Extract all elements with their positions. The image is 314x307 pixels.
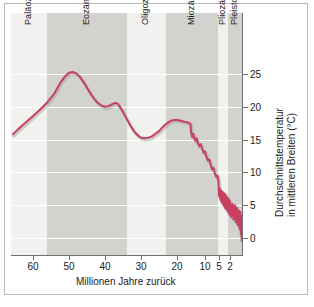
x-tick-50 bbox=[69, 256, 70, 260]
y-axis-title-line1: Durchschnittstemperatur bbox=[274, 108, 285, 217]
y-tick-25 bbox=[243, 74, 248, 75]
x-tick-5 bbox=[219, 256, 220, 260]
temperature-curve bbox=[11, 13, 242, 255]
y-tick-label-10: 10 bbox=[250, 167, 261, 178]
y-tick-5 bbox=[243, 205, 248, 206]
y-tick-0 bbox=[243, 238, 248, 239]
x-tick-20 bbox=[177, 256, 178, 260]
x-tick-label-30: 30 bbox=[135, 261, 146, 272]
x-tick-label-5: 5 bbox=[216, 261, 222, 272]
y-tick-15 bbox=[243, 140, 248, 141]
y-tick-10 bbox=[243, 172, 248, 173]
x-axis-title: Millionen Jahre zurück bbox=[76, 276, 176, 288]
x-tick-label-40: 40 bbox=[99, 261, 110, 272]
y-tick-label-5: 5 bbox=[250, 200, 256, 211]
x-tick-60 bbox=[33, 256, 34, 260]
temperature-chart-figure: PaläozänEozänOligozänMiozänPliozänPleist… bbox=[0, 0, 314, 307]
x-tick-label-10: 10 bbox=[199, 261, 210, 272]
y-tick-label-0: 0 bbox=[250, 233, 256, 244]
plot-right-axis-line bbox=[242, 13, 243, 256]
y-tick-label-20: 20 bbox=[250, 101, 261, 112]
plot-bottom-axis-line bbox=[11, 255, 243, 256]
x-tick-2 bbox=[230, 256, 231, 260]
x-tick-30 bbox=[141, 256, 142, 260]
x-tick-40 bbox=[105, 256, 106, 260]
x-tick-label-2: 2 bbox=[227, 261, 233, 272]
y-axis-title-line2: in mittleren Breiten (°C) bbox=[286, 57, 298, 217]
y-tick-20 bbox=[243, 107, 248, 108]
x-tick-label-20: 20 bbox=[171, 261, 182, 272]
x-tick-label-50: 50 bbox=[63, 261, 74, 272]
y-tick-label-25: 25 bbox=[250, 69, 261, 80]
y-axis-title: Durchschnittstemperatur in mittleren Bre… bbox=[274, 57, 298, 217]
x-tick-10 bbox=[205, 256, 206, 260]
y-tick-label-15: 15 bbox=[250, 134, 261, 145]
x-tick-label-60: 60 bbox=[27, 261, 38, 272]
